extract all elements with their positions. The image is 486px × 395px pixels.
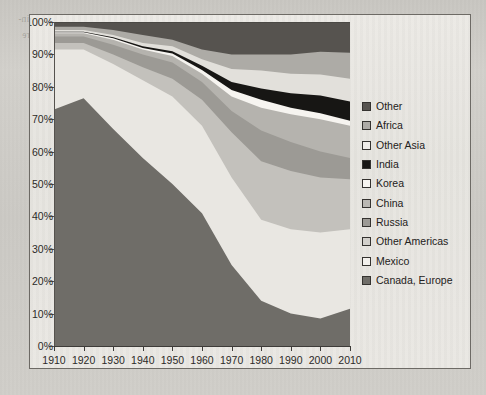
y-tick-label: 0% (29, 341, 53, 351)
legend-item-other[interactable]: Other (362, 97, 468, 116)
legend-item-africa[interactable]: Africa (362, 116, 468, 135)
area-series-svg (54, 22, 350, 346)
legend-item-other-americas[interactable]: Other Americas (362, 232, 468, 251)
x-tick (172, 346, 173, 351)
x-tick (232, 346, 233, 351)
legend-item-korea[interactable]: Korea (362, 174, 468, 193)
legend-item-label: Africa (376, 120, 403, 131)
chart-frame: 0%10%20%30%40%50%60%70%80%90%100% 191019… (29, 14, 471, 369)
legend-item-russia[interactable]: Russia (362, 213, 468, 232)
y-tick-label: 40% (29, 211, 53, 221)
x-tick (261, 346, 262, 351)
legend-item-label: Canada, Europe (376, 275, 452, 286)
legend-swatch-icon (362, 141, 371, 150)
legend-swatch-icon (362, 276, 371, 285)
stacked-area-plot (54, 22, 350, 346)
legend-item-label: Mexico (376, 256, 409, 267)
y-axis-labels: 0%10%20%30%40%50%60%70%80%90%100% (29, 15, 53, 355)
y-tick-label: 30% (29, 244, 53, 254)
y-tick-label: 10% (29, 309, 53, 319)
legend-item-label: Russia (376, 217, 408, 228)
y-tick-label: 60% (29, 147, 53, 157)
legend-swatch-icon (362, 237, 371, 246)
legend-swatch-icon (362, 218, 371, 227)
legend-swatch-icon (362, 179, 371, 188)
x-tick (113, 346, 114, 351)
x-tick (143, 346, 144, 351)
plot-wrapper (54, 22, 350, 346)
x-tick (54, 346, 55, 351)
legend-swatch-icon (362, 102, 371, 111)
y-tick-label: 90% (29, 49, 53, 59)
legend-item-india[interactable]: India (362, 155, 468, 174)
legend-item-label: China (376, 198, 403, 209)
legend-item-label: Other Americas (376, 236, 448, 247)
x-tick (84, 346, 85, 351)
legend-item-other-asia[interactable]: Other Asia (362, 136, 468, 155)
y-tick-label: 100% (29, 17, 53, 27)
legend-item-china[interactable]: China (362, 193, 468, 212)
chart-legend: OtherAfricaOther AsiaIndiaKoreaChinaRuss… (362, 97, 468, 290)
legend-item-mexico[interactable]: Mexico (362, 251, 468, 270)
x-axis-labels: 1910192019301940195019601970198019902000… (30, 354, 370, 369)
y-tick-label: 70% (29, 114, 53, 124)
legend-item-label: Other Asia (376, 140, 425, 151)
x-tick (320, 346, 321, 351)
y-tick-label: 50% (29, 179, 53, 189)
legend-swatch-icon (362, 160, 371, 169)
y-tick-label: 20% (29, 276, 53, 286)
legend-swatch-icon (362, 199, 371, 208)
legend-swatch-icon (362, 257, 371, 266)
x-tick (291, 346, 292, 351)
legend-item-label: Korea (376, 178, 404, 189)
legend-swatch-icon (362, 121, 371, 130)
x-tick (350, 346, 351, 351)
y-tick-label: 80% (29, 82, 53, 92)
x-tick-label: 2010 (333, 354, 367, 366)
legend-item-label: India (376, 159, 399, 170)
legend-item-canada-europe[interactable]: Canada, Europe (362, 271, 468, 290)
legend-item-label: Other (376, 101, 402, 112)
x-tick (202, 346, 203, 351)
